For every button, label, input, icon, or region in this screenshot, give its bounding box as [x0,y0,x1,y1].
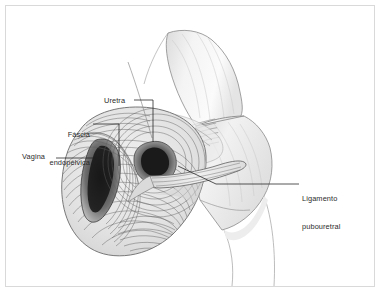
label-vagina: Vagina [22,152,45,161]
label-ligamento-pubouretral: Ligamento pubouretral [302,176,341,250]
label-fascia-line2: endopélvica [38,158,90,167]
label-ligamento-line2: pubouretral [302,222,341,231]
label-ligamento-line1: Ligamento [302,194,341,203]
bone-edge-right-lower [264,196,275,286]
figure-root: Uretra Fáscia endopélvica Vagina Ligamen… [0,0,381,293]
label-uretra: Uretra [104,96,125,105]
bone-edge-upper-left [144,33,168,84]
label-fascia-line1: Fáscia [38,130,90,139]
label-fascia-endopelvica: Fáscia endopélvica [38,112,90,186]
